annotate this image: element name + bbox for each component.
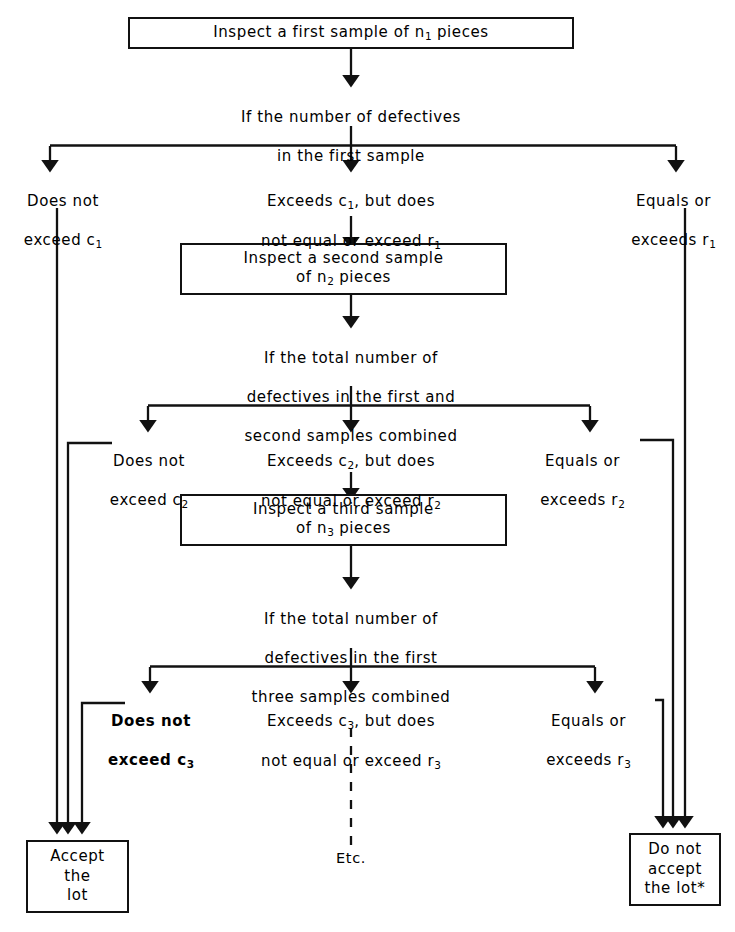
q3-line2: defectives in the first [264, 649, 437, 667]
box-first-sample[interactable]: Inspect a first sample of n1 pieces [128, 17, 574, 49]
reject-line1: Do not [648, 840, 702, 858]
branch-label-stage3-left: Does not exceed c3 [88, 692, 214, 771]
branch-label-stage2-left: Does not exceed c2 [86, 432, 212, 511]
s1-left-line1: Does not [27, 192, 99, 210]
s1-left-sub: 1 [95, 237, 102, 249]
s3-right-line1: Equals or [551, 712, 626, 730]
s2-left-line1: Does not [113, 452, 185, 470]
question-stage1: If the number of defectives in the first… [176, 88, 526, 166]
first-sample-sub: 1 [425, 30, 432, 42]
s3-mid-line2a: not equal or exceed r [261, 752, 434, 770]
branch-label-stage3-right: Equals or exceeds r3 [527, 692, 650, 771]
s3-right-line2: exceeds r [546, 751, 624, 769]
q2-line1: If the total number of [264, 349, 438, 367]
question-stage2: If the total number of defectives in the… [176, 329, 526, 446]
q3-line1: If the total number of [264, 610, 438, 628]
third-sample-line2b: pieces [334, 519, 391, 537]
reject-line3: the lot* [645, 879, 706, 897]
s1-mid-line1b: , but does [354, 192, 435, 210]
first-sample-text-b: pieces [432, 23, 489, 41]
s1-mid-line2a: not equal or exceed r [261, 232, 434, 250]
second-sample-sub: 2 [327, 275, 334, 287]
branch-label-stage1-right: Equals or exceeds r1 [612, 172, 735, 251]
box-second-sample-text: Inspect a second sample of n2 pieces [244, 249, 444, 289]
flowchart-canvas: Inspect a first sample of n1 pieces Insp… [0, 0, 735, 932]
s2-left-line2: exceed c [110, 491, 182, 509]
box-reject-lot-text: Do not accept the lot* [645, 840, 706, 899]
s1-right-line1: Equals or [636, 192, 711, 210]
s3-left-sub: 3 [187, 757, 194, 769]
branch-label-stage1-middle: Exceeds c1, but does not equal or exceed… [201, 172, 501, 252]
second-sample-line2a: of n [296, 268, 327, 286]
s2-mid-line1b: , but does [354, 452, 435, 470]
s1-mid-sub2: 1 [434, 239, 441, 251]
s2-mid-line1a: Exceeds c [267, 452, 348, 470]
q1-line1: If the number of defectives [241, 108, 461, 126]
s2-mid-sub2: 2 [434, 499, 441, 511]
s2-right-sub: 2 [618, 497, 625, 509]
s1-right-sub: 1 [709, 237, 716, 249]
s1-right-line2: exceeds r [631, 231, 709, 249]
q2-line2: defectives in the first and [247, 388, 456, 406]
first-sample-text-a: Inspect a first sample of n [213, 23, 425, 41]
accept-line3: lot [67, 886, 88, 904]
third-sample-line2a: of n [296, 519, 327, 537]
s3-mid-sub2: 3 [434, 759, 441, 771]
second-sample-line2b: pieces [334, 268, 391, 286]
question-stage3: If the total number of defectives in the… [176, 590, 526, 707]
box-reject-lot[interactable]: Do not accept the lot* [629, 833, 721, 906]
accept-line2: the [64, 867, 90, 885]
q1-line2: in the first sample [277, 147, 425, 165]
s2-right-line1: Equals or [545, 452, 620, 470]
s1-left-line2: exceed c [24, 231, 96, 249]
s1-mid-line1a: Exceeds c [267, 192, 348, 210]
s2-right-line2: exceeds r [540, 491, 618, 509]
rail-reject-stage3 [655, 700, 663, 822]
accept-line1: Accept [50, 847, 105, 865]
s3-mid-line1b: , but does [354, 712, 435, 730]
s2-mid-line2a: not equal or exceed r [261, 492, 434, 510]
s3-right-sub: 3 [624, 757, 631, 769]
branch-label-stage2-middle: Exceeds c2, but does not equal or exceed… [201, 432, 501, 512]
box-accept-lot[interactable]: Accept the lot [26, 840, 129, 913]
box-first-sample-text: Inspect a first sample of n1 pieces [213, 23, 489, 44]
s3-left-line2: exceed c [108, 751, 187, 769]
branch-label-stage3-middle: Exceeds c3, but does not equal or exceed… [201, 692, 501, 772]
branch-label-stage1-left: Does not exceed c1 [0, 172, 126, 251]
s3-mid-line1a: Exceeds c [267, 712, 348, 730]
third-sample-sub: 3 [327, 526, 334, 538]
box-accept-lot-text: Accept the lot [50, 847, 105, 906]
s3-left-line1: Does not [111, 712, 191, 730]
branch-label-stage2-right: Equals or exceeds r2 [521, 432, 644, 511]
continuation-label: Etc. [311, 849, 391, 868]
s2-left-sub: 2 [181, 497, 188, 509]
reject-line2: accept [648, 860, 702, 878]
